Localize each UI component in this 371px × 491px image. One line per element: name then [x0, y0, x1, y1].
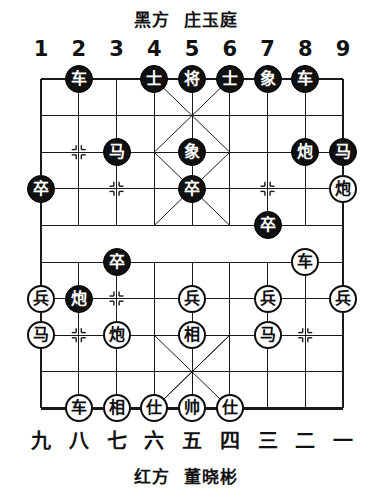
piece-black-horse-c3r2[interactable]: 马 — [103, 138, 131, 166]
piece-red-pawn-c9r6[interactable]: 兵 — [329, 285, 357, 313]
piece-black-advisor-c6r0[interactable]: 士 — [216, 65, 244, 93]
file-label-bottom-4: 六 — [141, 428, 167, 454]
piece-red-advisor-c6r9[interactable]: 仕 — [216, 394, 244, 422]
file-label-bottom-8: 二 — [292, 428, 318, 454]
file-label-bottom-9: 一 — [330, 428, 356, 454]
file-label-top-5: 5 — [179, 36, 205, 62]
piece-black-elephant-c5r2[interactable]: 象 — [178, 138, 206, 166]
red-player-name: 董晓彬 — [184, 467, 238, 487]
file-label-top-6: 6 — [217, 36, 243, 62]
file-label-bottom-6: 四 — [217, 428, 243, 454]
piece-black-pawn-c3r5[interactable]: 卒 — [103, 248, 131, 276]
file-label-bottom-2: 八 — [66, 428, 92, 454]
piece-red-horse-c7r7[interactable]: 马 — [254, 321, 282, 349]
piece-black-horse-c9r2[interactable]: 马 — [329, 138, 357, 166]
file-label-top-1: 1 — [28, 36, 54, 62]
piece-black-pawn-c5r3[interactable]: 卒 — [178, 175, 206, 203]
piece-red-horse-c1r7[interactable]: 马 — [27, 321, 55, 349]
file-label-top-4: 4 — [141, 36, 167, 62]
piece-black-elephant-c7r0[interactable]: 象 — [254, 65, 282, 93]
red-side-label: 红方 — [134, 467, 170, 487]
piece-red-chariot-c2r9[interactable]: 车 — [65, 394, 93, 422]
piece-red-pawn-c5r6[interactable]: 兵 — [178, 285, 206, 313]
piece-red-elephant-c5r7[interactable]: 相 — [178, 321, 206, 349]
piece-red-cannon-c3r7[interactable]: 炮 — [103, 321, 131, 349]
piece-black-chariot-c2r0[interactable]: 车 — [65, 65, 93, 93]
file-label-top-3: 3 — [104, 36, 130, 62]
black-side-label: 黑方 — [134, 10, 170, 30]
piece-black-cannon-c2r6[interactable]: 炮 — [65, 285, 93, 313]
file-label-top-2: 2 — [66, 36, 92, 62]
bottom-file-numbers: 九八七六五四三二一 — [0, 428, 371, 454]
piece-red-cannon-c9r3[interactable]: 炮 — [329, 175, 357, 203]
piece-red-pawn-c7r6[interactable]: 兵 — [254, 285, 282, 313]
file-label-top-7: 7 — [255, 36, 281, 62]
file-label-bottom-3: 七 — [104, 428, 130, 454]
file-label-bottom-1: 九 — [28, 428, 54, 454]
piece-black-pawn-c1r3[interactable]: 卒 — [27, 175, 55, 203]
file-label-bottom-5: 五 — [179, 428, 205, 454]
top-file-numbers: 123456789 — [0, 36, 371, 62]
piece-red-pawn-c1r6[interactable]: 兵 — [27, 285, 55, 313]
piece-red-elephant-c3r9[interactable]: 相 — [103, 394, 131, 422]
piece-black-pawn-c7r4[interactable]: 卒 — [254, 211, 282, 239]
red-side-caption: 红方董晓彬 — [0, 463, 371, 488]
file-label-top-8: 8 — [292, 36, 318, 62]
black-player-name: 庄玉庭 — [184, 10, 238, 30]
piece-black-general-c5r0[interactable]: 将 — [178, 65, 206, 93]
board-grid — [0, 60, 371, 428]
xiangqi-board[interactable]: 车士将士象车马象炮马卒卒炮卒卒车兵炮兵兵兵马炮相马车相仕帅仕 — [0, 60, 371, 428]
file-label-top-9: 9 — [330, 36, 356, 62]
black-side-caption: 黑方庄玉庭 — [0, 6, 371, 31]
file-label-bottom-7: 三 — [255, 428, 281, 454]
